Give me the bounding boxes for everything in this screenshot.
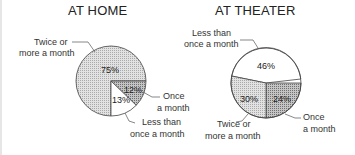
home-label-once-line2: a month [157,103,190,114]
theater-label-once: Once [303,112,325,123]
home-leader-twice [72,42,95,52]
home-leader-less [125,113,135,123]
theater-pie: 46% 24% 30% [231,40,301,122]
home-pct-once: 12% [124,85,142,95]
home-label-once: Once [163,91,185,102]
theater-pct-twice: 30% [240,94,258,104]
theater-leader-less [240,40,258,48]
home-label-twice-line2: more a month [19,48,75,59]
home-label-less: Less than [142,117,181,128]
home-pie: 75% 12% 13% [72,42,160,123]
theater-label-once-line2: a month [303,124,336,135]
theater-pct-less: 46% [257,61,275,71]
theater-leader-once [285,114,301,118]
theater-label-less: Less than [192,28,231,39]
home-pct-twice: 75% [101,65,119,75]
theater-label-less-line2: once a month [184,39,239,50]
theater-pct-once: 24% [273,94,291,104]
theater-label-twice: Twice or [217,119,251,130]
home-leader-once [143,92,160,97]
home-title: AT HOME [68,3,127,18]
home-pct-less: 13% [112,95,130,105]
theater-label-twice-line2: more a month [205,131,261,142]
home-label-less-line2: once a month [130,129,185,140]
theater-title: AT THEATER [215,3,296,18]
home-label-twice: Twice or [34,37,68,48]
